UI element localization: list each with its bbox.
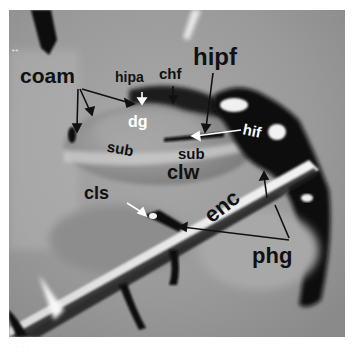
label-hif: hif bbox=[242, 121, 263, 139]
label-clw: clw bbox=[167, 162, 199, 182]
label-phg: phg bbox=[252, 245, 292, 267]
label-hipa: hipa bbox=[115, 70, 144, 84]
scale-marker: · · · · · bbox=[10, 343, 36, 349]
label-sub-left: sub bbox=[106, 139, 135, 158]
label-chf: chf bbox=[159, 66, 182, 81]
mri-image: coam hipa chf hipf dg hif sub sub clw cl… bbox=[9, 10, 345, 337]
label-sub-right: sub bbox=[178, 146, 205, 161]
label-hipf: hipf bbox=[193, 45, 237, 69]
label-coam: coam bbox=[20, 65, 75, 86]
orientation-arrow-icon: ↔ bbox=[10, 43, 20, 54]
label-dg: dg bbox=[128, 114, 148, 130]
label-cls: cls bbox=[84, 184, 109, 202]
